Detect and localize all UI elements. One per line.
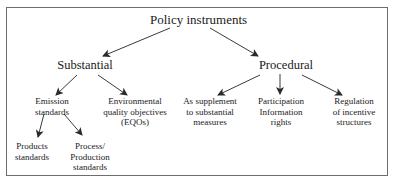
node-products-standards: Products standards xyxy=(14,141,50,162)
arrow-root-to-procedural xyxy=(210,28,258,56)
node-participation: Participation Information rights xyxy=(255,96,307,128)
node-as-supplement: As supplement to substantial measures xyxy=(180,96,240,128)
arrow-root-to-substantial xyxy=(103,28,170,56)
arrow-emission-to-products xyxy=(38,114,44,137)
node-policy-instruments: Policy instruments xyxy=(150,12,242,28)
arrow-substantial-to-emission xyxy=(56,75,77,95)
node-regulation: Regulation of incentive structures xyxy=(329,96,379,128)
node-label: Substantial xyxy=(57,58,113,72)
node-substantial: Substantial xyxy=(50,58,120,73)
node-emission-standards: Emission standards xyxy=(30,96,74,117)
node-process-standards: Process/ Production standards xyxy=(68,141,112,173)
node-procedural: Procedural xyxy=(253,58,319,73)
arrow-procedural-to-supplement xyxy=(218,75,260,95)
arrow-emission-to-process xyxy=(64,114,82,135)
arrow-substantial-to-eqo xyxy=(98,75,127,95)
node-eqos: Environmental quality objectives (EQOs) xyxy=(102,96,168,128)
node-label: Procedural xyxy=(259,58,313,72)
arrow-procedural-to-regulation xyxy=(302,75,342,95)
node-label: Policy instruments xyxy=(150,12,247,27)
